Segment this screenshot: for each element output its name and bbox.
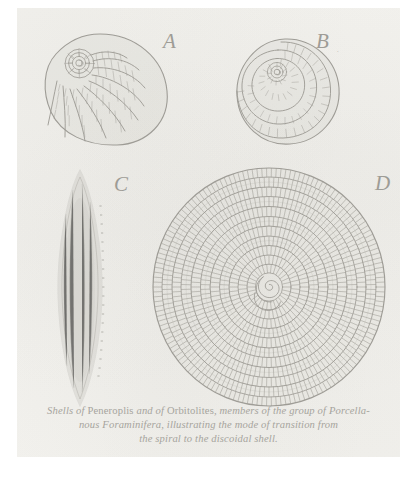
caption-run: Shells of — [47, 405, 87, 416]
caption-run: Orbitolites — [167, 405, 214, 416]
caption-run: nous Foraminifera, illustrating the mode… — [79, 419, 338, 430]
figure-b-mark: . — [337, 45, 339, 54]
plate-caption: Shells of Peneroplis and of Orbitolites,… — [29, 404, 388, 447]
caption-run: , members of the group of Porcella- — [214, 405, 370, 416]
illustration-plate: A — [17, 8, 400, 457]
figure-a-peneroplis-spiral — [39, 30, 175, 148]
figure-label-c: C — [114, 174, 129, 195]
figure-d-orbitolites-disc — [151, 166, 391, 409]
caption-run: and of — [134, 405, 167, 416]
caption-line-3: the spiral to the discoidal shell. — [29, 432, 388, 446]
figure-label-a: A — [163, 31, 176, 52]
caption-line-1: Shells of Peneroplis and of Orbitolites,… — [29, 404, 388, 418]
figure-label-d: D — [375, 173, 391, 194]
caption-line-2: nous Foraminifera, illustrating the mode… — [29, 418, 388, 432]
caption-run: the spiral to the discoidal shell. — [139, 433, 278, 444]
caption-run: Peneroplis — [87, 405, 133, 416]
figure-label-b: B — [316, 31, 329, 52]
figure-c-orbitolites-edge-view — [49, 168, 111, 408]
